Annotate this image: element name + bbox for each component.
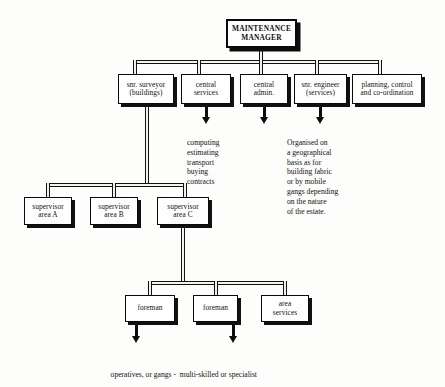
node-label: snr. engineer (services) [299,81,341,97]
node-supervisor-area-a[interactable]: supervisor area A [24,197,72,225]
arrow-snr-engineer-down [319,106,322,117]
annotation-central-services-detail: computing estimating transport buying co… [187,128,257,187]
node-label: area services [271,300,299,317]
node-label: central services [192,81,220,97]
connector-stub-l2-4 [315,60,319,74]
node-supervisor-area-b[interactable]: supervisor area B [90,197,138,225]
node-supervisor-area-c[interactable]: supervisor area C [157,197,209,225]
connector-stub-l4-2 [214,281,218,295]
connector-level3-bus [48,183,187,187]
annotation-snr-engineer-detail: Organised on a geographical basis as for… [287,128,357,217]
node-foreman-1[interactable]: foreman [125,295,175,322]
node-label: supervisor area C [165,203,201,220]
node-label: MAINTENANCE MANAGER [230,25,293,42]
node-central-admin[interactable]: central admin. [240,74,288,104]
node-maintenance-manager[interactable]: MAINTENANCE MANAGER [226,19,297,48]
node-snr-surveyor-buildings[interactable]: snr. surveyor (buildings) [118,74,174,104]
annotation-text: computing estimating transport buying co… [187,138,219,186]
node-snr-engineer-services[interactable]: snr. engineer (services) [294,74,347,104]
caption-operatives: operatives, or gangs - multi-skilled or … [103,361,257,387]
node-foreman-2[interactable]: foreman [193,295,238,322]
node-label: central admin. [252,81,277,97]
arrow-foreman-2-down [232,325,235,336]
connector-stub-l2-1 [133,60,137,74]
connector-stub-l3-2 [112,183,116,197]
arrow-central-services-down [205,106,208,117]
arrow-central-admin-down [263,106,266,117]
connector-surveyor-spine [145,104,149,184]
node-label: foreman [201,304,230,312]
org-chart-canvas: MAINTENANCE MANAGER snr. surveyor (build… [0,0,445,387]
arrow-foreman-1-down [135,325,138,336]
caption-text: operatives, or gangs - multi-skilled or … [111,370,257,379]
connector-stub-l4-1 [148,281,152,295]
connector-stub-l2-5 [378,60,382,74]
connector-stub-l4-3 [283,281,287,295]
connector-stub-l2-3 [259,60,263,74]
node-label: supervisor area B [96,203,132,220]
connector-level4-bus [150,281,287,285]
node-label: snr. surveyor (buildings) [125,81,168,97]
annotation-text: Organised on a geographical basis as for… [287,138,338,216]
node-planning-control-coordination[interactable]: planning, control and co-ordination [352,74,422,104]
connector-stub-l2-2 [197,60,201,74]
node-label: supervisor area A [30,203,66,220]
node-label: foreman [135,304,164,312]
connector-stub-l3-1 [46,183,50,197]
connector-supervisor-c-spine [181,225,185,282]
node-central-services[interactable]: central services [181,74,231,104]
node-label: planning, control and co-ordination [359,81,416,97]
node-area-services[interactable]: area services [261,295,309,322]
